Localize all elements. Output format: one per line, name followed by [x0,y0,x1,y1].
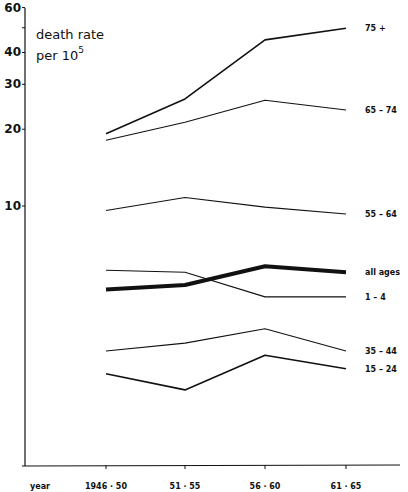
series-label: 75 + [365,24,386,33]
series-label: 35 – 44 [365,347,397,356]
series-label: 55 – 64 [365,210,397,219]
series-label: all ages [365,268,400,277]
x-tick-label: 61 · 65 [331,482,362,491]
line-chart: 1020304060 1946 · 5051 · 5556 · 6061 · 6… [0,0,408,492]
series-line-35-44 [106,329,346,351]
series-line-15-24 [106,355,346,390]
y-tick-label: 30 [4,77,21,91]
series-line-allages [106,266,346,289]
y-axis-title-line1: death rate [36,27,104,42]
y-axis-title-line2: per 105 [36,45,84,63]
series-line-65-74 [106,100,346,140]
series-line-75 [106,28,346,134]
y-tick-label: 10 [4,199,21,213]
x-axis-line [22,465,400,466]
y-axis-ticks: 1020304060 [4,1,25,213]
series-labels: 75 +65 – 7455 – 64all ages1 – 435 – 4415… [365,24,400,374]
x-tick-label: 56 · 60 [250,482,281,491]
series-line-55-64 [106,198,346,215]
series-label: 65 – 74 [365,106,397,115]
y-axis-title-exponent: 5 [78,45,84,55]
y-axis-title-base: per 10 [36,48,78,63]
x-axis-ticks: 1946 · 5051 · 5556 · 6061 · 65 [85,465,362,491]
y-tick-label: 40 [4,45,21,59]
x-axis-title: year [30,482,50,491]
series-lines [106,28,346,390]
x-tick-label: 1946 · 50 [85,482,127,491]
series-label: 1 – 4 [365,293,386,302]
axes [22,8,400,466]
series-label: 15 – 24 [365,365,397,374]
y-tick-label: 60 [4,1,21,15]
y-tick-label: 20 [4,122,21,136]
x-tick-label: 51 · 55 [170,482,201,491]
